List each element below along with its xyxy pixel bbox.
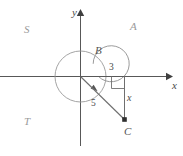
y-axis <box>77 9 84 146</box>
quadrant-label-t: T <box>24 116 30 127</box>
quadrant-label-s: S <box>24 24 30 35</box>
quadrant-label-a: A <box>130 21 137 32</box>
measure-label-hypotenuse: 5 <box>91 99 96 109</box>
point-c-marker <box>122 117 127 122</box>
coordinate-plane-diagram: x y S A T B C 3 x 5 <box>0 0 183 156</box>
measure-label-vertical-leg: x <box>127 93 131 103</box>
measure-label-horizontal-leg: 3 <box>109 63 114 73</box>
point-label-c: C <box>124 126 131 137</box>
x-axis-label: x <box>172 80 177 91</box>
hypotenuse-segment <box>81 77 125 120</box>
point-label-b: B <box>95 45 102 56</box>
y-axis-label: y <box>72 7 77 18</box>
